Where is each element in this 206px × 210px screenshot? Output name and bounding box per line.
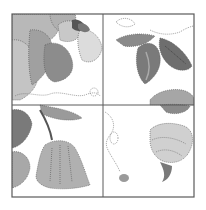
leaves-top-right (116, 18, 194, 105)
bud-bottom-right (105, 104, 192, 182)
flower-top-left (12, 14, 102, 100)
tulip-bottom-left (12, 105, 90, 189)
quilt-pattern-illustration (0, 0, 206, 210)
